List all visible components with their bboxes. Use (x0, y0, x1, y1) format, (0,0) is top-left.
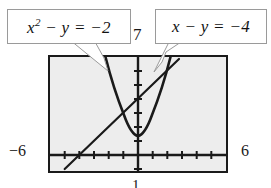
figure-root: x2 − y = −2 x − y = −4 −6 6 7 1 (0, 0, 271, 188)
axis-label-y-min: 1 (132, 178, 140, 188)
callout-label-parabola: x2 − y = −2 (7, 9, 131, 44)
equation-parabola-rest: − y = −2 (45, 17, 111, 36)
equation-parabola: x2 − y = −2 (27, 16, 111, 38)
equation-parabola-base: x (27, 17, 35, 36)
equation-line: x − y = −4 (172, 17, 250, 37)
axis-label-x-min: −6 (9, 143, 26, 159)
line-curve (65, 59, 179, 169)
axis-label-x-max: 6 (241, 143, 249, 159)
equation-parabola-exponent: 2 (35, 16, 41, 28)
callout-label-line: x − y = −4 (155, 9, 267, 44)
plot-canvas (50, 57, 226, 171)
